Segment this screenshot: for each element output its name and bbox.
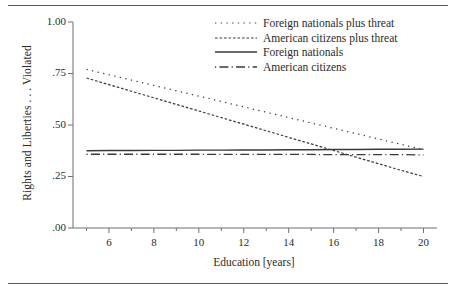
x-axis-tick-label: 8	[141, 236, 167, 248]
y-axis-tick-label: .75	[30, 66, 66, 78]
y-axis-tick-label: .00	[30, 221, 66, 233]
y-axis-tick-label: .25	[30, 169, 66, 181]
legend-label: Foreign nationals plus threat	[263, 17, 394, 29]
chart-legend: Foreign nationals plus threat American c…	[214, 16, 446, 74]
x-axis-tick-label: 18	[366, 236, 392, 248]
legend-label: American citizens plus threat	[263, 32, 397, 44]
chart-series-line	[86, 78, 423, 176]
chart-series-line	[86, 154, 423, 155]
x-axis-title: Education [years]	[73, 256, 435, 268]
legend-swatch-dotted-icon	[214, 17, 258, 29]
x-axis-tick-label: 10	[186, 236, 212, 248]
x-axis-tick-label: 14	[276, 236, 302, 248]
legend-item: Foreign nationals plus threat	[214, 16, 446, 31]
legend-item: American citizens plus threat	[214, 31, 446, 46]
y-axis-tick-label: .50	[30, 118, 66, 130]
y-axis-tick-label: 1.00	[30, 15, 66, 27]
chart-series-line	[86, 69, 423, 149]
legend-swatch-dashed-icon	[214, 32, 258, 44]
figure-container: Rights and Liberties . . . Violated Educ…	[0, 0, 455, 293]
legend-swatch-dash-dot-icon	[214, 61, 258, 73]
legend-label: Foreign nationals	[263, 46, 343, 58]
x-axis-tick-label: 16	[321, 236, 347, 248]
legend-item: American citizens	[214, 60, 446, 75]
x-axis-tick-label: 20	[411, 236, 437, 248]
x-axis-tick-label: 12	[231, 236, 257, 248]
legend-item: Foreign nationals	[214, 45, 446, 60]
x-axis-tick-label: 6	[96, 236, 122, 248]
legend-label: American citizens	[263, 61, 346, 73]
legend-swatch-solid-icon	[214, 46, 258, 58]
chart-series-line	[86, 149, 423, 151]
